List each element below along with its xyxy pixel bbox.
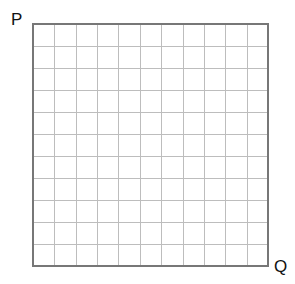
grid-lines [33,24,268,266]
grid-border [33,24,268,266]
square-grid [0,0,295,284]
